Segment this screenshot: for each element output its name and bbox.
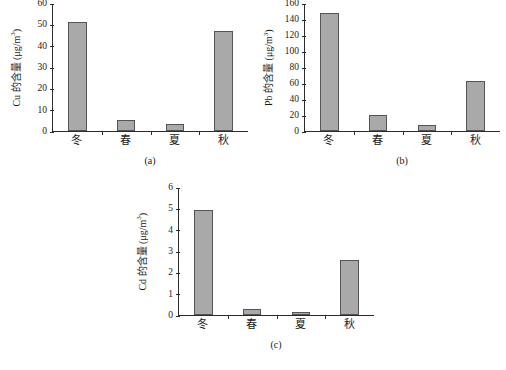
y-tick-label: 5 bbox=[168, 205, 173, 215]
y-tick-label: 3 bbox=[168, 247, 173, 257]
x-tick-label: 秋 bbox=[218, 135, 229, 146]
y-tick-mark bbox=[302, 132, 306, 133]
y-axis-label-a: Cu 的含量 (μg/m3) bbox=[8, 4, 24, 132]
x-axis-tick-labels-c: 冬春夏秋 bbox=[178, 319, 374, 335]
y-axis-label-a-text: Cu 的含量 (μg/m bbox=[11, 36, 22, 107]
y-tick-mark bbox=[302, 20, 306, 21]
chart-panel-b: Pb 的含量 (μg/m3) 020406080100120140160 冬春夏… bbox=[258, 4, 502, 186]
y-tick-mark bbox=[176, 230, 180, 231]
bar bbox=[243, 309, 262, 315]
x-tick-label: 秋 bbox=[470, 135, 481, 146]
y-tick-label: 50 bbox=[38, 21, 48, 31]
x-tick-label: 夏 bbox=[169, 135, 180, 146]
y-axis-label-c: Cd 的含量 (μg/m3) bbox=[134, 188, 150, 316]
y-tick-label: 120 bbox=[285, 31, 299, 41]
y-tick-mark bbox=[302, 100, 306, 101]
chart-panel-a: Cu 的含量 (μg/m3) 0102030405060 冬春夏秋 (a) bbox=[6, 4, 250, 186]
x-tick-label: 秋 bbox=[344, 319, 355, 330]
y-tick-mark bbox=[50, 25, 54, 26]
y-tick-mark bbox=[50, 110, 54, 111]
y-tick-mark bbox=[302, 68, 306, 69]
y-axis-label-b-exponent: 3 bbox=[261, 33, 269, 37]
panel-caption-b: (b) bbox=[304, 156, 500, 166]
y-tick-label: 1 bbox=[168, 290, 173, 300]
bar-series-c bbox=[179, 188, 374, 315]
y-axis-label-c-exponent: 3 bbox=[135, 216, 143, 220]
bar bbox=[418, 125, 437, 131]
y-tick-label: 0 bbox=[168, 311, 173, 321]
y-tick-label: 6 bbox=[168, 183, 173, 193]
y-tick-label: 80 bbox=[290, 63, 300, 73]
y-tick-label: 20 bbox=[38, 85, 48, 95]
x-axis-tick-labels-a: 冬春夏秋 bbox=[52, 135, 248, 151]
bar bbox=[214, 31, 233, 131]
y-tick-mark bbox=[50, 46, 54, 47]
panel-caption-a: (a) bbox=[52, 156, 248, 166]
y-tick-mark bbox=[176, 316, 180, 317]
y-tick-label: 4 bbox=[168, 226, 173, 236]
y-tick-label: 140 bbox=[285, 15, 299, 25]
chart-panel-c: Cd 的含量 (μg/m3) 0123456 冬春夏秋 (c) bbox=[132, 188, 376, 366]
bar-series-a bbox=[53, 4, 248, 131]
x-tick-label: 冬 bbox=[71, 135, 82, 146]
plot-area-c: Cd 的含量 (μg/m3) 0123456 冬春夏秋 (c) bbox=[132, 188, 376, 330]
x-axis-tick-labels-b: 冬春夏秋 bbox=[304, 135, 500, 151]
x-tick-label: 冬 bbox=[323, 135, 334, 146]
y-axis-tick-labels-b: 020406080100120140160 bbox=[276, 4, 302, 132]
y-tick-label: 30 bbox=[38, 63, 48, 73]
y-axis-label-b: Pb 的含量 (μg/m3) bbox=[260, 4, 276, 132]
y-tick-mark bbox=[176, 188, 180, 189]
y-tick-label: 60 bbox=[290, 79, 300, 89]
y-tick-mark bbox=[302, 116, 306, 117]
y-tick-mark bbox=[302, 4, 306, 5]
y-tick-mark bbox=[176, 252, 180, 253]
y-tick-mark bbox=[302, 36, 306, 37]
y-tick-mark bbox=[50, 132, 54, 133]
y-tick-mark bbox=[50, 89, 54, 90]
bar bbox=[466, 81, 485, 131]
bar bbox=[166, 124, 185, 131]
y-axis-label-b-text: Pb 的含量 (μg/m bbox=[263, 37, 274, 107]
axes-b bbox=[304, 4, 500, 132]
x-tick-label: 春 bbox=[246, 319, 257, 330]
bar bbox=[194, 210, 213, 315]
y-axis-tick-labels-c: 0123456 bbox=[150, 188, 176, 316]
y-axis-label-c-text: Cd 的含量 (μg/m bbox=[137, 220, 148, 291]
y-tick-mark bbox=[176, 209, 180, 210]
bar bbox=[117, 120, 136, 131]
plot-area-b: Pb 的含量 (μg/m3) 020406080100120140160 冬春夏… bbox=[258, 4, 502, 146]
y-tick-mark bbox=[176, 273, 180, 274]
bar-series-b bbox=[305, 4, 500, 131]
y-axis-label-b-close: ) bbox=[263, 30, 274, 33]
x-tick-label: 夏 bbox=[421, 135, 432, 146]
axes-a bbox=[52, 4, 248, 132]
y-tick-label: 160 bbox=[285, 0, 299, 9]
y-tick-mark bbox=[302, 52, 306, 53]
bar bbox=[320, 13, 339, 131]
y-axis-label-a-exponent: 3 bbox=[9, 32, 17, 36]
y-tick-label: 40 bbox=[38, 42, 48, 52]
bar bbox=[68, 22, 87, 131]
y-tick-label: 2 bbox=[168, 269, 173, 279]
y-tick-label: 0 bbox=[294, 127, 299, 137]
y-tick-label: 20 bbox=[290, 111, 300, 121]
plot-area-a: Cu 的含量 (μg/m3) 0102030405060 冬春夏秋 (a) bbox=[6, 4, 250, 146]
y-tick-label: 100 bbox=[285, 47, 299, 57]
axes-c bbox=[178, 188, 374, 316]
bar bbox=[369, 115, 388, 131]
y-tick-mark bbox=[50, 4, 54, 5]
figure-sheet: Cu 的含量 (μg/m3) 0102030405060 冬春夏秋 (a) Pb… bbox=[0, 0, 506, 370]
y-tick-label: 0 bbox=[42, 127, 47, 137]
x-tick-label: 冬 bbox=[197, 319, 208, 330]
x-tick-label: 夏 bbox=[295, 319, 306, 330]
y-tick-label: 10 bbox=[38, 106, 48, 116]
y-axis-label-a-close: ) bbox=[11, 29, 22, 32]
bar bbox=[340, 260, 359, 315]
y-tick-label: 40 bbox=[290, 95, 300, 105]
y-axis-label-c-close: ) bbox=[137, 213, 148, 216]
y-axis-tick-labels-a: 0102030405060 bbox=[24, 4, 50, 132]
panel-caption-c: (c) bbox=[178, 340, 374, 350]
y-tick-mark bbox=[302, 84, 306, 85]
x-tick-label: 春 bbox=[120, 135, 131, 146]
y-tick-mark bbox=[176, 294, 180, 295]
